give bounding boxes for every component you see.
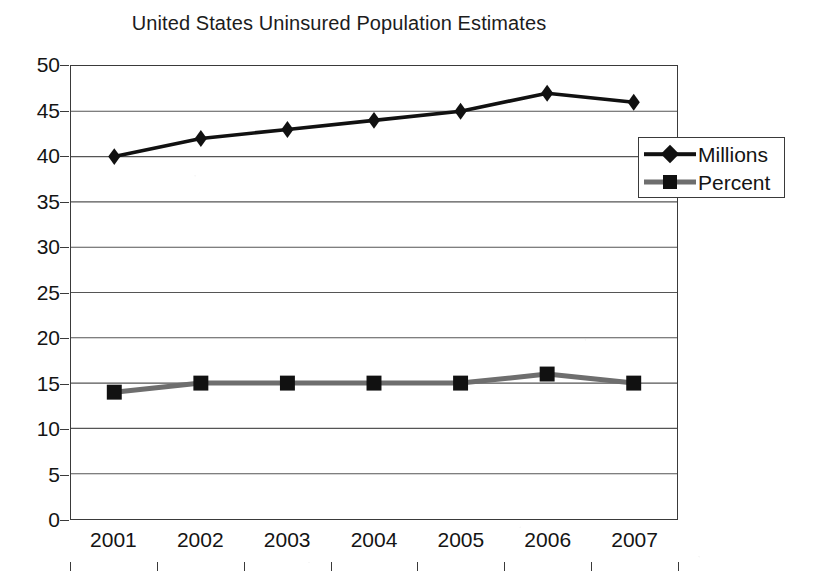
plot-area — [70, 65, 678, 520]
x-tick-label: 2001 — [90, 528, 137, 552]
y-tick-label: 20 — [12, 326, 60, 350]
chart-figure: United States Uninsured Population Estim… — [0, 0, 813, 586]
legend-item-percent[interactable]: Percent — [639, 167, 784, 197]
data-point-percent — [626, 376, 641, 391]
y-tick-label: 25 — [12, 281, 60, 305]
data-point-millions — [628, 94, 640, 111]
data-point-percent — [540, 367, 555, 382]
square-marker-icon — [663, 175, 677, 189]
y-tick-mark — [60, 65, 69, 66]
x-tick-label: 2004 — [351, 528, 398, 552]
y-tick-mark — [60, 156, 69, 157]
data-point-millions — [281, 121, 293, 138]
data-point-percent — [367, 376, 382, 391]
x-tick-label: 2003 — [264, 528, 311, 552]
y-tick-label: 10 — [12, 417, 60, 441]
legend-swatch-millions — [642, 143, 698, 165]
legend-label-percent: Percent — [698, 172, 770, 193]
y-tick-mark — [60, 111, 69, 112]
y-tick-mark — [60, 293, 69, 294]
x-axis: 2001200220032004200520062007 — [70, 528, 678, 562]
data-point-millions — [368, 112, 380, 129]
x-tick-label: 2005 — [437, 528, 484, 552]
data-point-millions — [541, 85, 553, 102]
y-tick-label: 15 — [12, 372, 60, 396]
x-tick-mark — [331, 562, 332, 571]
chart-title: United States Uninsured Population Estim… — [0, 12, 678, 35]
data-point-percent — [280, 376, 295, 391]
x-tick-label: 2007 — [611, 528, 658, 552]
x-tick-mark — [504, 562, 505, 571]
y-tick-mark — [60, 520, 69, 521]
data-point-millions — [195, 130, 207, 147]
data-point-percent — [107, 385, 122, 400]
y-tick-label: 35 — [12, 190, 60, 214]
y-tick-mark — [60, 475, 69, 476]
x-tick-mark — [417, 562, 418, 571]
y-tick-label: 0 — [12, 508, 60, 532]
legend-item-millions[interactable]: Millions — [639, 139, 784, 169]
y-tick-label: 5 — [12, 463, 60, 487]
data-point-percent — [453, 376, 468, 391]
data-series-layer — [71, 66, 677, 519]
x-tick-mark — [70, 562, 71, 571]
y-tick-label: 40 — [12, 144, 60, 168]
x-tick-label: 2006 — [524, 528, 571, 552]
legend-swatch-percent — [642, 171, 698, 193]
y-tick-mark — [60, 429, 69, 430]
data-point-millions — [454, 103, 466, 120]
chart-legend[interactable]: Millions Percent — [638, 137, 785, 198]
data-point-millions — [108, 148, 120, 165]
x-tick-mark — [678, 562, 679, 571]
y-tick-mark — [60, 384, 69, 385]
y-tick-mark — [60, 338, 69, 339]
y-axis: 50454035302520151050 — [8, 65, 60, 520]
diamond-marker-icon — [661, 145, 679, 163]
y-tick-label: 45 — [12, 99, 60, 123]
x-tick-mark — [244, 562, 245, 571]
x-tick-mark — [157, 562, 158, 571]
y-tick-label: 50 — [12, 53, 60, 77]
y-tick-label: 30 — [12, 235, 60, 259]
x-tick-label: 2002 — [177, 528, 224, 552]
y-tick-mark — [60, 247, 69, 248]
legend-label-millions: Millions — [698, 144, 768, 165]
data-point-percent — [193, 376, 208, 391]
y-tick-mark — [60, 202, 69, 203]
x-tick-mark — [591, 562, 592, 571]
